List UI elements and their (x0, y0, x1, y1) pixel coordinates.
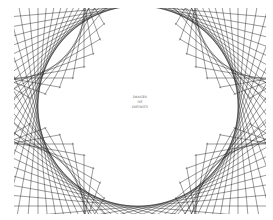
artwork-caption: IMAGES OF INFINITY (118, 95, 162, 110)
caption-line-infinity: INFINITY (118, 105, 162, 110)
string-art-figure (0, 0, 273, 220)
